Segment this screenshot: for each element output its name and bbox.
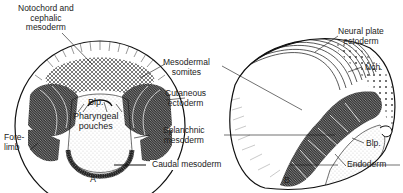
label-line: pouches [73, 122, 119, 132]
label-line: ectoderm [165, 99, 206, 109]
label-splanchnic-mesoderm: Splanchnic mesoderm [163, 126, 205, 145]
panel-letter-b: B [284, 176, 290, 186]
label-cutaneous-ectoderm: Cutaneous ectoderm [165, 89, 206, 108]
label-blp-a: Blp. [88, 98, 104, 108]
label-pharyngeal-pouches: Pharyngeal pouches [73, 112, 119, 131]
label-caudal-mesoderm: Caudal mesoderm [150, 160, 223, 170]
label-mesodermal-somites: Mesodermal somites [163, 58, 210, 77]
label-line: limb [4, 143, 24, 153]
panel-letter-a: A [90, 175, 96, 185]
label-notochord-cephalic-mesoderm: Notochord and cephalic mesoderm [18, 4, 74, 33]
label-nch: Nch. [365, 63, 382, 73]
label-fore-limb: Fore- limb [4, 133, 24, 152]
label-endoderm: Endoderm [347, 160, 386, 170]
label-blp-b: Blp. [366, 139, 381, 149]
label-neural-plate-ectoderm: Neural plate ectoderm [338, 27, 384, 46]
label-line: ectoderm [338, 37, 384, 47]
label-line: mesoderm [163, 136, 205, 146]
label-line: mesoderm [18, 23, 74, 33]
label-line: somites [163, 68, 210, 78]
